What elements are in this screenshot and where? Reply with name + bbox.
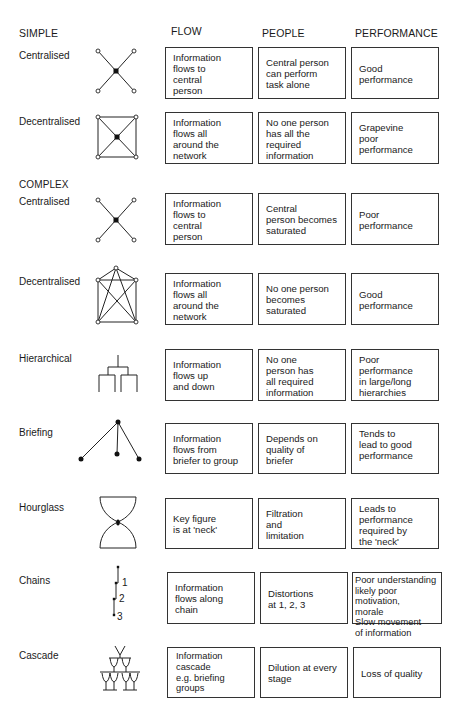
performance-cell: Good performance	[351, 273, 439, 325]
header-flow: FLOW	[171, 25, 202, 37]
flow-cell: Information flows along chain	[167, 572, 255, 624]
header-performance: PERFORMANCE	[355, 27, 438, 39]
row-label-centralised-complex: Centralised	[19, 196, 70, 207]
people-cell: Central person becomes saturated	[258, 193, 346, 245]
hourglass-icon	[99, 496, 137, 549]
performance-cell: Poor understanding likely poor motivatio…	[352, 572, 442, 624]
row-label-centralised-simple: Centralised	[19, 50, 70, 61]
performance-cell: Poor performance in large/long hierarchi…	[351, 349, 439, 401]
people-cell: No one person becomes saturated	[258, 273, 346, 325]
header-people: PEOPLE	[262, 27, 305, 39]
people-cell: No one person has all the required infor…	[258, 112, 346, 164]
flow-cell: Information cascade e.g. briefing groups	[167, 647, 255, 698]
row-label-decentralised-simple: Decentralised	[19, 116, 80, 127]
header-complex: COMPLEX	[19, 179, 69, 190]
full-mesh-network-icon	[96, 266, 138, 324]
performance-cell: Grapevine poor performance	[351, 112, 439, 164]
flow-cell: Key figure is at 'neck'	[165, 498, 253, 549]
briefing-fan-icon	[78, 419, 142, 463]
performance-cell: Leads to performance required by the 'ne…	[351, 498, 439, 549]
row-label-briefing: Briefing	[19, 427, 53, 438]
row-label-cascade: Cascade	[19, 650, 58, 661]
hierarchy-tree-icon	[97, 355, 139, 395]
performance-cell: Poor performance	[351, 193, 439, 245]
chain-number-1: 1	[122, 577, 128, 588]
people-cell: Filtration and limitation	[258, 498, 346, 549]
row-label-decentralised-complex: Decentralised	[19, 276, 80, 287]
people-cell: No one person has all required informati…	[258, 349, 346, 401]
people-cell: Distortions at 1, 2, 3	[260, 572, 348, 624]
people-cell: Dilution at every stage	[260, 647, 348, 698]
chain-icon: 1 2 3	[108, 565, 128, 625]
flow-cell: Information flows to central person	[165, 193, 253, 245]
star-network-icon	[95, 48, 137, 94]
row-label-hierarchical: Hierarchical	[19, 353, 72, 364]
star-network-icon	[95, 197, 137, 243]
chain-number-3: 3	[117, 611, 123, 622]
performance-cell: Tends to lead to good performance	[351, 423, 439, 474]
people-cell: Depends on quality of briefer	[258, 423, 346, 474]
performance-cell: Loss of quality	[353, 647, 441, 698]
header-simple: SIMPLE	[19, 27, 58, 39]
flow-cell: Information flows from briefer to group	[165, 423, 253, 474]
row-label-hourglass: Hourglass	[19, 502, 64, 513]
row-label-chains: Chains	[19, 575, 50, 586]
square-network-icon	[96, 115, 138, 159]
flow-cell: Information flows all around the network	[165, 273, 253, 325]
people-cell: Central person can perform task alone	[258, 47, 346, 99]
glass-cascade-icon	[99, 645, 141, 693]
flow-cell: Information flows up and down	[165, 349, 253, 401]
performance-cell: Good performance	[351, 47, 439, 99]
chain-number-2: 2	[119, 593, 125, 604]
flow-cell: Information flows to central person	[165, 47, 253, 99]
flow-cell: Information flows all around the network	[165, 112, 253, 164]
